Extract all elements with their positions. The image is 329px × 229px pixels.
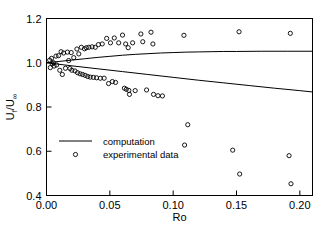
x-axis-tick-labels: 0.000.050.100.150.20: [36, 199, 311, 211]
data-point-marker: [288, 31, 292, 35]
computation-curve: [47, 51, 313, 63]
x-axis-ticks: [47, 191, 300, 196]
legend-circle-swatch: [73, 152, 77, 156]
data-point-marker: [56, 54, 60, 58]
data-point-marker: [289, 182, 293, 186]
data-point-marker: [58, 68, 62, 72]
data-point-marker: [75, 47, 79, 51]
data-point-marker: [238, 172, 242, 176]
y-tick-label: 1.2: [26, 13, 41, 25]
data-point-marker: [151, 42, 155, 46]
data-point-marker: [186, 123, 190, 127]
plot-frame: [47, 19, 313, 196]
y-axis-title-main: U: [4, 112, 16, 120]
data-point-marker: [141, 40, 145, 44]
x-axis-title: Ro: [172, 211, 186, 223]
data-point-marker: [160, 94, 164, 98]
data-point-marker: [77, 52, 81, 56]
y-axis-title: Uf/U∞: [4, 94, 19, 120]
computation-curves: [47, 51, 313, 92]
data-point-marker: [63, 66, 67, 70]
data-point-marker: [117, 41, 121, 45]
data-point-marker: [105, 36, 109, 40]
data-point-marker: [120, 33, 124, 37]
y-axis-ticks: [47, 19, 52, 196]
data-point-marker: [127, 92, 131, 96]
chart-legend: computation experimental data: [59, 136, 179, 161]
y-tick-label: 0.6: [26, 145, 41, 157]
data-point-marker: [144, 88, 148, 92]
chart-figure: 0.40.60.81.01.2 0.000.050.100.150.20 Ro …: [0, 0, 329, 229]
y-axis-title-slash: /U: [4, 99, 16, 110]
data-point-marker: [133, 89, 137, 93]
data-point-marker: [72, 56, 76, 60]
x-tick-label: 0.00: [36, 199, 57, 211]
data-point-marker: [131, 41, 135, 45]
legend-label-experimental-data: experimental data: [103, 149, 179, 160]
data-point-marker: [182, 33, 186, 37]
data-point-marker: [81, 72, 85, 76]
data-point-marker: [156, 94, 160, 98]
data-point-marker: [108, 41, 112, 45]
legend-label-computation: computation: [103, 136, 155, 147]
y-axis-tick-labels: 0.40.60.81.01.2: [26, 13, 41, 202]
y-axis-title-sub-infinity: ∞: [10, 94, 19, 99]
data-point-marker: [83, 73, 87, 77]
svg-text:Uf/U∞: Uf/U∞: [4, 94, 19, 120]
x-tick-label: 0.15: [226, 199, 247, 211]
data-point-marker: [126, 46, 130, 50]
y-tick-label: 0.8: [26, 101, 41, 113]
x-tick-label: 0.20: [289, 199, 310, 211]
data-point-marker: [60, 72, 64, 76]
data-point-marker: [149, 30, 153, 34]
data-point-marker: [151, 92, 155, 96]
data-point-marker: [182, 143, 186, 147]
y-tick-label: 1.0: [26, 57, 41, 69]
data-point-marker: [127, 88, 131, 92]
data-point-marker: [287, 154, 291, 158]
x-tick-label: 0.10: [162, 199, 183, 211]
data-point-marker: [231, 148, 235, 152]
x-tick-label: 0.05: [99, 199, 120, 211]
data-point-marker: [139, 32, 143, 36]
scatter-plot: 0.40.60.81.01.2 0.000.050.100.150.20 Ro …: [0, 0, 329, 229]
data-point-marker: [112, 36, 116, 40]
data-point-marker: [237, 30, 241, 34]
